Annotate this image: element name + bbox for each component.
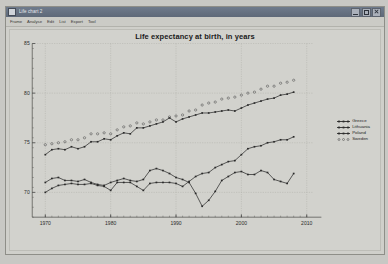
- grid-lines: [32, 44, 313, 218]
- legend-marker-poland: [337, 131, 350, 136]
- chart-legend: Greece Lithuania Poland Sweden: [337, 118, 370, 142]
- svg-text:2010: 2010: [301, 221, 312, 226]
- series-lithuania: [44, 168, 294, 207]
- tick-labels: 1970198019902000201070758085: [24, 41, 313, 226]
- maximize-button[interactable]: [362, 8, 371, 17]
- svg-text:1970: 1970: [40, 221, 51, 226]
- svg-text:70: 70: [24, 190, 30, 195]
- menu-bar: Frame Analyse Edit List Export Tool: [6, 17, 384, 27]
- svg-text:1990: 1990: [170, 221, 181, 226]
- window-controls: [351, 8, 382, 17]
- legend-marker-greece: [337, 119, 350, 124]
- menu-item-list[interactable]: List: [59, 19, 66, 25]
- svg-text:80: 80: [24, 91, 30, 96]
- series-lines: [44, 79, 295, 207]
- plot-area: 1970198019902000201070758085: [10, 30, 380, 250]
- line-chart-svg: 1970198019902000201070758085: [10, 30, 380, 250]
- svg-text:85: 85: [24, 41, 30, 46]
- window-titlebar[interactable]: Life chart 2: [6, 7, 384, 17]
- window-client-area: Life expectancy at birth, in years 19701…: [6, 27, 384, 254]
- chart-figure: Life expectancy at birth, in years 19701…: [9, 29, 381, 251]
- menu-item-frame[interactable]: Frame: [10, 19, 22, 25]
- legend-label-sweden: Sweden: [352, 136, 368, 142]
- app-icon: [8, 8, 16, 16]
- menu-item-edit[interactable]: Edit: [47, 19, 54, 25]
- series-poland: [44, 136, 294, 193]
- minimize-button[interactable]: [351, 8, 360, 17]
- menu-item-export[interactable]: Export: [71, 19, 83, 25]
- svg-text:75: 75: [24, 141, 30, 146]
- axes: [32, 44, 321, 218]
- svg-text:2000: 2000: [236, 221, 247, 226]
- window-title: Life chart 2: [19, 9, 348, 15]
- menu-item-tool[interactable]: Tool: [88, 19, 96, 25]
- close-button[interactable]: [372, 8, 381, 17]
- legend-marker-sweden: [337, 137, 350, 142]
- series-sweden: [44, 79, 295, 146]
- menu-item-analyse[interactable]: Analyse: [27, 19, 42, 25]
- svg-text:1980: 1980: [105, 221, 116, 226]
- series-greece: [44, 91, 294, 155]
- legend-marker-lithuania: [337, 125, 350, 130]
- application-window: Life chart 2 Frame Analyse Edit List Exp…: [5, 6, 385, 255]
- legend-item-sweden[interactable]: Sweden: [337, 136, 370, 142]
